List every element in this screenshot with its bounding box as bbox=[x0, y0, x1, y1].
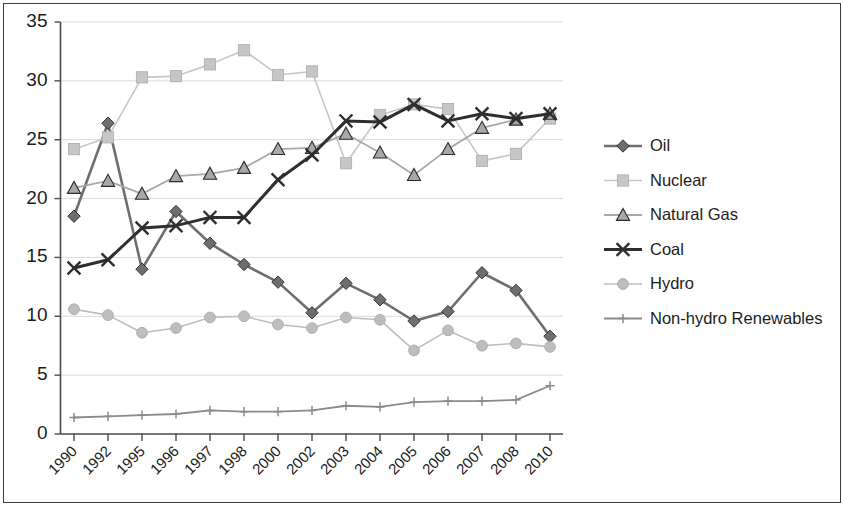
data-point-marker bbox=[341, 312, 352, 323]
data-point-marker bbox=[340, 158, 351, 169]
y-axis-tick-label: 30 bbox=[26, 69, 47, 90]
data-point-marker bbox=[68, 144, 79, 155]
data-point-marker bbox=[375, 314, 386, 325]
data-point-marker bbox=[239, 407, 248, 416]
data-point-marker bbox=[137, 411, 146, 420]
y-axis-tick-label: 10 bbox=[26, 304, 47, 325]
data-point-marker bbox=[68, 210, 80, 222]
y-axis-tick-label: 5 bbox=[37, 363, 48, 384]
legend-item-oil[interactable]: Oil bbox=[604, 136, 670, 154]
y-axis-tick-label: 20 bbox=[26, 187, 47, 208]
data-point-marker bbox=[101, 174, 114, 186]
data-point-marker bbox=[136, 263, 148, 275]
x-axis-tick-label: 2007 bbox=[453, 442, 489, 478]
data-point-marker bbox=[239, 311, 250, 322]
legend-item-label: Coal bbox=[650, 240, 684, 258]
data-point-marker bbox=[204, 59, 215, 70]
x-axis-tick-label: 2008 bbox=[487, 442, 523, 478]
x-axis-tick-label: 2000 bbox=[249, 442, 285, 478]
data-point-marker bbox=[205, 406, 214, 415]
data-point-marker bbox=[272, 69, 283, 80]
data-point-marker bbox=[341, 401, 350, 410]
x-axis-tick-label: 1995 bbox=[113, 442, 149, 478]
line-chart-svg: 05101520253035 1990199219951996199719982… bbox=[0, 0, 844, 506]
data-point-marker bbox=[409, 398, 418, 407]
data-point-marker bbox=[511, 338, 522, 349]
legend-item-nuclear[interactable]: Nuclear bbox=[604, 171, 707, 189]
data-point-marker bbox=[373, 146, 386, 158]
data-point-marker bbox=[238, 45, 249, 56]
data-point-marker bbox=[306, 66, 317, 77]
legend: OilNuclearNatural GasCoalHydroNon-hydro … bbox=[604, 136, 822, 327]
data-point-marker bbox=[409, 345, 420, 356]
data-point-marker bbox=[170, 71, 181, 82]
data-point-marker bbox=[407, 168, 420, 180]
x-axis-tick-labels: 1990199219951996199719982000200220032004… bbox=[45, 442, 557, 478]
data-point-marker bbox=[273, 319, 284, 330]
data-point-marker bbox=[205, 312, 216, 323]
legend-item-label: Non-hydro Renewables bbox=[650, 309, 822, 327]
data-point-marker bbox=[307, 323, 318, 334]
legend-item-label: Natural Gas bbox=[650, 205, 738, 223]
data-point-marker bbox=[442, 104, 453, 115]
data-point-marker bbox=[510, 148, 521, 159]
x-axis-tick-label: 2006 bbox=[419, 442, 455, 478]
x-axis-tick-label: 2004 bbox=[351, 442, 387, 478]
data-series bbox=[67, 45, 556, 422]
data-point-marker bbox=[237, 161, 250, 173]
y-axis-tick-label: 0 bbox=[37, 422, 48, 443]
data-point-marker bbox=[273, 407, 282, 416]
y-axis-tick-label: 25 bbox=[26, 128, 47, 149]
legend-item-non-hydro-renewables[interactable]: Non-hydro Renewables bbox=[604, 309, 822, 327]
data-point-marker bbox=[477, 340, 488, 351]
data-point-marker bbox=[477, 396, 486, 405]
x-axis-tick-label: 2005 bbox=[385, 442, 421, 478]
data-point-marker bbox=[443, 396, 452, 405]
series-non-hydro-renewables bbox=[69, 381, 554, 422]
data-point-marker bbox=[375, 402, 384, 411]
x-axis-tick-label: 1990 bbox=[45, 442, 81, 478]
data-point-marker bbox=[137, 327, 148, 338]
x-axis-tick-label: 2010 bbox=[521, 442, 557, 478]
axes bbox=[55, 22, 564, 441]
legend-item-label: Oil bbox=[650, 136, 670, 154]
data-point-marker bbox=[272, 173, 285, 186]
x-axis-tick-label: 2003 bbox=[317, 442, 353, 478]
legend-item-coal[interactable]: Coal bbox=[604, 240, 684, 258]
data-point-marker bbox=[135, 187, 148, 199]
x-axis-tick-label: 2002 bbox=[283, 442, 319, 478]
chart-canvas: 05101520253035 1990199219951996199719982… bbox=[0, 0, 844, 506]
data-point-marker bbox=[617, 175, 628, 186]
x-axis-tick-label: 1998 bbox=[215, 442, 251, 478]
data-point-marker bbox=[103, 310, 114, 321]
data-point-marker bbox=[69, 304, 80, 315]
x-axis-tick-label: 1997 bbox=[181, 442, 217, 478]
y-axis-tick-label: 15 bbox=[26, 245, 47, 266]
data-point-marker bbox=[238, 258, 250, 270]
data-point-marker bbox=[618, 279, 629, 290]
data-point-marker bbox=[511, 395, 520, 404]
data-point-marker bbox=[307, 406, 316, 415]
data-point-marker bbox=[618, 314, 627, 323]
data-point-marker bbox=[476, 155, 487, 166]
legend-item-label: Nuclear bbox=[650, 171, 707, 189]
data-point-marker bbox=[374, 294, 386, 306]
y-axis-tick-label: 35 bbox=[26, 10, 47, 31]
data-point-marker bbox=[443, 325, 454, 336]
x-axis-tick-label: 1992 bbox=[79, 442, 115, 478]
data-point-marker bbox=[617, 140, 629, 152]
data-point-marker bbox=[69, 413, 78, 422]
data-point-marker bbox=[545, 381, 554, 390]
x-axis-tick-label: 1996 bbox=[147, 442, 183, 478]
data-point-marker bbox=[102, 117, 114, 129]
y-axis-tick-labels: 05101520253035 bbox=[26, 10, 47, 443]
data-point-marker bbox=[103, 412, 112, 421]
data-point-marker bbox=[339, 127, 352, 139]
data-point-marker bbox=[102, 132, 113, 143]
data-point-marker bbox=[136, 72, 147, 83]
legend-item-natural-gas[interactable]: Natural Gas bbox=[604, 205, 738, 223]
chart-page: 05101520253035 1990199219951996199719982… bbox=[0, 0, 844, 506]
data-point-marker bbox=[441, 143, 454, 155]
legend-item-hydro[interactable]: Hydro bbox=[604, 274, 694, 292]
data-point-marker bbox=[545, 341, 556, 352]
